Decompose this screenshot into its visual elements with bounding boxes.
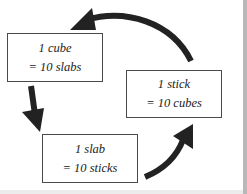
unit-conversion-cycle-diagram: 1 cube = 10 slabs 1 stick = 10 cubes 1 s… xyxy=(0,0,247,194)
curved-arrow-icon xyxy=(145,124,193,177)
node-stick: 1 stick = 10 cubes xyxy=(126,70,222,118)
right-border-strip xyxy=(243,0,247,194)
node-stick-line1: 1 stick xyxy=(158,75,190,94)
node-slab-line1: 1 slab xyxy=(75,140,105,159)
bottom-border-strip xyxy=(0,190,243,194)
down-arrow-icon xyxy=(22,86,44,132)
node-slab: 1 slab = 10 sticks xyxy=(42,134,138,183)
node-cube-line2: = 10 slabs xyxy=(29,58,82,77)
node-stick-line2: = 10 cubes xyxy=(146,94,202,113)
node-cube: 1 cube = 10 slabs xyxy=(7,33,103,82)
node-cube-line1: 1 cube xyxy=(39,39,72,58)
node-slab-line2: = 10 sticks xyxy=(63,159,118,178)
